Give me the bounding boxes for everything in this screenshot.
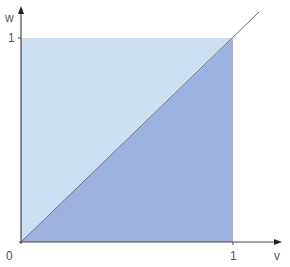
x-axis-label: v [274, 250, 280, 262]
y-tick-label-one: 1 [8, 32, 15, 44]
x-axis-arrow-icon [274, 239, 282, 245]
diagram-canvas [0, 0, 290, 267]
origin-label: 0 [6, 250, 13, 262]
y-axis-arrow-icon [18, 6, 24, 14]
y-axis-label: w [5, 12, 14, 24]
x-tick-label-one: 1 [230, 250, 237, 262]
